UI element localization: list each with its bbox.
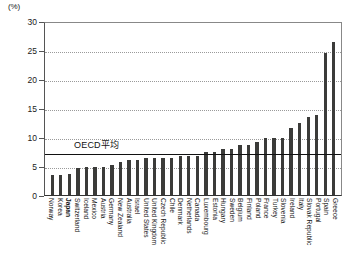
bar-slot: [210, 23, 219, 195]
bar: [281, 138, 284, 195]
x-axis-label-slot: Spain: [322, 198, 331, 268]
x-axis-label-slot: Austria: [99, 198, 108, 268]
bar: [230, 149, 233, 195]
x-axis-label-slot: Iceland: [81, 198, 90, 268]
bar: [93, 167, 96, 195]
y-axis-tick-group: 302520151050: [0, 0, 44, 196]
x-axis-label: Austria: [99, 198, 106, 219]
x-axis-label: Slovak Republic: [306, 198, 313, 245]
bar-slot: [193, 23, 202, 195]
x-axis-label: Italy: [297, 198, 304, 210]
bar-slot: [312, 23, 321, 195]
x-axis-label-slot: Turkey: [270, 198, 279, 268]
oecd-average-line: [45, 154, 341, 155]
bar: [187, 156, 190, 195]
x-axis-label: Switzerland: [74, 198, 81, 232]
x-axis-label-slot: Chile: [167, 198, 176, 268]
x-axis-label-slot: Czech Republic: [159, 198, 168, 268]
y-axis-tick-label: 30: [3, 18, 37, 27]
oecd-average-label: OECD平均: [74, 140, 119, 150]
x-axis-label-slot: Finland: [245, 198, 254, 268]
bar-slot: [185, 23, 194, 195]
bar-slot: [99, 23, 108, 195]
x-axis-label: Spain: [323, 198, 330, 215]
x-axis-label-slot: Norway: [47, 198, 56, 268]
x-axis-label-slot: Slovenia: [279, 198, 288, 268]
x-axis-label-slot: Ireland: [288, 198, 297, 268]
x-axis-label-slot: France: [262, 198, 271, 268]
bar-slot: [142, 23, 151, 195]
x-axis-label: United States: [142, 198, 149, 238]
bar-slot: [125, 23, 134, 195]
bar-slot: [108, 23, 117, 195]
bar-slot: [261, 23, 270, 195]
bar: [247, 145, 250, 195]
x-axis-label: Australia: [125, 198, 132, 224]
x-axis-label: Canada: [194, 198, 201, 221]
bar: [68, 174, 71, 195]
bar-slot: [321, 23, 330, 195]
x-axis-label-slot: Slovak Republic: [305, 198, 314, 268]
x-axis-label-slot: Netherlands: [185, 198, 194, 268]
bar: [298, 123, 301, 195]
bar: [85, 167, 88, 195]
bar: [76, 168, 79, 195]
x-axis-label: United Kingdom: [151, 198, 158, 245]
y-axis-tick-mark: [39, 196, 44, 197]
x-axis-label-slot: Luxembourg: [202, 198, 211, 268]
bar: [221, 149, 224, 195]
y-axis-tick-label: 20: [3, 76, 37, 85]
x-axis-label-slot: New Zealand: [116, 198, 125, 268]
bar-slot: [295, 23, 304, 195]
bar-slot: [253, 23, 262, 195]
bar-slot: [287, 23, 296, 195]
bar: [144, 158, 147, 195]
y-axis-tick-label: 25: [3, 47, 37, 56]
bar-slot: [304, 23, 313, 195]
bar: [238, 145, 241, 195]
x-axis-label-slot: Japan: [64, 198, 73, 268]
x-axis-label-slot: Israel: [133, 198, 142, 268]
x-axis-label-slot: Germany: [107, 198, 116, 268]
bar: [179, 156, 182, 195]
x-axis-label: Sweden: [228, 198, 235, 222]
x-axis-label: Czech Republic: [160, 198, 167, 244]
bar: [170, 158, 173, 195]
bar: [289, 128, 292, 195]
x-axis-label: Luxembourg: [203, 198, 210, 235]
y-axis-tick-label: 15: [3, 105, 37, 114]
bar-slot: [330, 23, 339, 195]
y-axis-tick-label: 10: [3, 134, 37, 143]
x-axis-label: France: [263, 198, 270, 219]
x-axis-label-slot: Greece: [331, 198, 340, 268]
x-axis-label-slot: Canada: [193, 198, 202, 268]
x-axis-label-slot: Switzerland: [73, 198, 82, 268]
plot-area: [44, 22, 342, 196]
bar-slot: [82, 23, 91, 195]
bar: [136, 160, 139, 195]
x-axis-label: Estonia: [211, 198, 218, 220]
x-axis-label: Iceland: [82, 198, 89, 219]
bar-slot: [57, 23, 66, 195]
bar: [119, 162, 122, 195]
bar: [213, 152, 216, 196]
x-axis-label: Netherlands: [185, 198, 192, 234]
bar-slot: [65, 23, 74, 195]
x-axis-label-slot: Portugal: [313, 198, 322, 268]
bar-slot: [176, 23, 185, 195]
bar: [272, 138, 275, 195]
bar: [102, 167, 105, 195]
bar: [264, 138, 267, 195]
x-axis-label: Poland: [254, 198, 261, 219]
x-axis-label: New Zealand: [117, 198, 124, 237]
x-axis-label: Hungary: [220, 198, 227, 223]
bar-slot: [116, 23, 125, 195]
x-axis-label: Portugal: [314, 198, 321, 223]
bar-slot: [74, 23, 83, 195]
bar-slot: [227, 23, 236, 195]
x-axis-label-slot: United Kingdom: [150, 198, 159, 268]
x-axis-label: Israel: [134, 198, 141, 214]
bar: [161, 158, 164, 195]
bar-slot: [91, 23, 100, 195]
bar: [59, 175, 62, 195]
